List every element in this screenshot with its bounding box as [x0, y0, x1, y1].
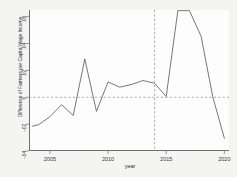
x-axis-title: year — [100, 163, 160, 169]
x-tick-label: 2020 — [212, 156, 236, 162]
x-axis-tick-marks — [50, 151, 224, 154]
data-series-line — [32, 11, 224, 139]
chart-svg — [0, 0, 237, 177]
y-axis-title: Difference of Farmers per Capita Wage In… — [17, 0, 23, 137]
x-tick-label: 2010 — [96, 156, 120, 162]
x-tick-label: 2005 — [38, 156, 62, 162]
chart-figure: -.04-.020.02.04.06 2005201020152020 Diff… — [0, 0, 237, 177]
y-tick-label: -.04 — [21, 151, 27, 167]
x-tick-label: 2015 — [154, 156, 178, 162]
